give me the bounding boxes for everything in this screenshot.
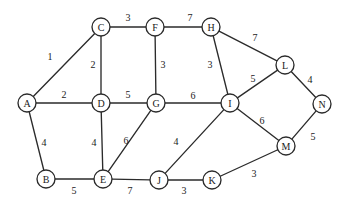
edge-weight-h-l: 7 xyxy=(253,32,258,43)
node-c[interactable]: C xyxy=(92,18,110,36)
node-label-l: L xyxy=(282,60,288,71)
node-i[interactable]: I xyxy=(221,94,239,112)
edge-weight-a-c: 1 xyxy=(48,51,53,62)
edge-weight-c-f: 3 xyxy=(126,12,131,23)
node-a[interactable]: A xyxy=(18,94,36,112)
node-n[interactable]: N xyxy=(313,95,331,113)
node-k[interactable]: K xyxy=(203,171,221,189)
edge-weight-b-e: 5 xyxy=(72,185,77,196)
node-label-n: N xyxy=(318,99,325,110)
graph-diagram: ABCDEFGHIJKLMN 1242354567376375463345 xyxy=(0,0,349,208)
edge-weight-g-i: 6 xyxy=(191,90,196,101)
node-b[interactable]: B xyxy=(37,170,55,188)
edge-weight-m-n: 5 xyxy=(311,131,316,142)
node-label-f: F xyxy=(152,22,158,33)
node-label-i: I xyxy=(228,98,231,109)
node-e[interactable]: E xyxy=(94,170,112,188)
edge-f-g xyxy=(155,36,156,94)
edge-weight-c-d: 2 xyxy=(91,59,96,70)
edge-e-g xyxy=(108,110,151,171)
edge-weight-i-j: 4 xyxy=(174,136,179,147)
edge-d-e xyxy=(101,112,103,170)
graph-canvas-svg: ABCDEFGHIJKLMN 1242354567376375463345 xyxy=(0,0,349,208)
node-h[interactable]: H xyxy=(202,18,220,36)
node-l[interactable]: L xyxy=(276,56,294,74)
edge-k-m xyxy=(220,150,278,176)
node-label-h: H xyxy=(207,22,214,33)
edge-weight-f-g: 3 xyxy=(161,59,166,70)
node-g[interactable]: G xyxy=(147,94,165,112)
node-label-k: K xyxy=(208,175,216,186)
node-label-g: G xyxy=(152,98,159,109)
edge-weight-f-h: 7 xyxy=(188,12,193,23)
edge-weight-e-j: 7 xyxy=(128,185,133,196)
edge-weight-e-g: 6 xyxy=(124,135,129,146)
edge-h-i xyxy=(213,36,228,95)
edge-weight-a-d: 2 xyxy=(62,89,67,100)
edge-h-l xyxy=(219,31,277,61)
node-m[interactable]: M xyxy=(277,137,295,155)
node-label-j: J xyxy=(157,175,161,186)
edges-layer xyxy=(29,27,316,180)
edge-weight-d-e: 4 xyxy=(92,137,97,148)
edge-weight-d-g: 5 xyxy=(126,89,131,100)
node-d[interactable]: D xyxy=(92,94,110,112)
edge-weight-i-m: 6 xyxy=(260,115,265,126)
node-label-m: M xyxy=(282,141,291,152)
edge-weight-l-n: 4 xyxy=(308,74,313,85)
node-label-d: D xyxy=(97,98,104,109)
edge-weight-i-l: 5 xyxy=(251,73,256,84)
node-label-c: C xyxy=(98,22,105,33)
edge-i-m xyxy=(237,108,279,140)
edge-weight-a-b: 4 xyxy=(42,137,47,148)
node-label-b: B xyxy=(43,174,50,185)
node-label-a: A xyxy=(23,98,31,109)
edge-weight-j-k: 3 xyxy=(182,185,187,196)
edge-weight-h-i: 3 xyxy=(208,59,213,70)
edge-a-c xyxy=(33,33,94,96)
node-label-e: E xyxy=(100,174,106,185)
edge-e-j xyxy=(112,179,150,180)
node-f[interactable]: F xyxy=(146,18,164,36)
node-j[interactable]: J xyxy=(150,171,168,189)
edge-weight-k-m: 3 xyxy=(252,168,257,179)
edge-i-l xyxy=(237,70,277,98)
